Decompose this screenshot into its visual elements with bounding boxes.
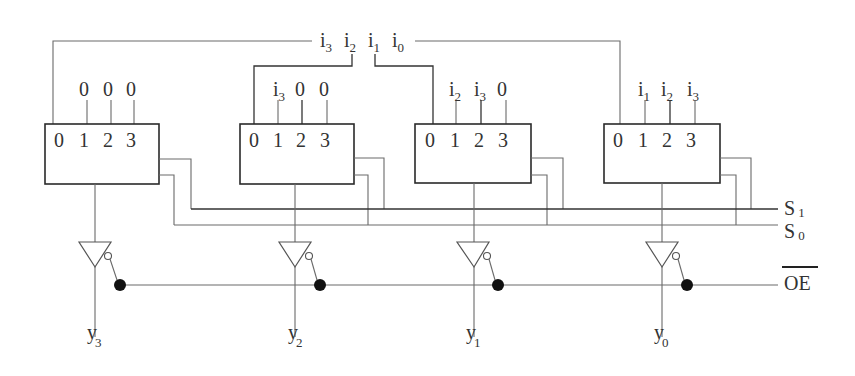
inverter-bubble-icon bbox=[306, 253, 313, 260]
mux1-input3-label: 0 bbox=[497, 78, 507, 100]
mux2-input3-label: 0 bbox=[319, 78, 329, 100]
mux1-pin0: 0 bbox=[425, 129, 435, 151]
junction-dot-icon bbox=[114, 279, 126, 291]
mux1-s0-wire bbox=[531, 175, 547, 225]
bus-label-i0: i0 bbox=[392, 29, 404, 55]
s0-label: S0 bbox=[784, 220, 805, 243]
bus-label-i1: i1 bbox=[368, 29, 380, 55]
mux3-input2-label: 0 bbox=[103, 78, 113, 100]
output-y0: y0 bbox=[646, 183, 693, 350]
mux0-pin2: 2 bbox=[662, 129, 672, 151]
mux0-input2-label: i2 bbox=[661, 78, 673, 104]
junction-dot-icon bbox=[681, 279, 693, 291]
mux-shifter-diagram: i3 i2 i1 i0 0 0 0 0 1 2 3 i3 0 0 0 1 2 3 bbox=[0, 0, 855, 376]
y0-label: y0 bbox=[654, 321, 669, 350]
s1-label: S1 bbox=[784, 197, 805, 220]
mux1-input2-label: i3 bbox=[474, 78, 486, 104]
mux1-pin3: 3 bbox=[498, 129, 508, 151]
oe-label: OE bbox=[784, 272, 811, 294]
mux0-pin1: 1 bbox=[638, 129, 648, 151]
mux1-pin1: 1 bbox=[450, 129, 460, 151]
mux3-s1-wire bbox=[159, 159, 191, 209]
bus-label-i3: i3 bbox=[320, 29, 332, 55]
mux3-pin3: 3 bbox=[126, 129, 136, 151]
wire-i1-to-mux1 bbox=[375, 54, 433, 124]
mux2-pin3: 3 bbox=[320, 129, 330, 151]
mux1-pin2: 2 bbox=[474, 129, 484, 151]
junction-dot-icon bbox=[492, 279, 504, 291]
mux3-pin1: 1 bbox=[79, 129, 89, 151]
mux2-input2-label: 0 bbox=[295, 78, 305, 100]
mux1-input1-label: i2 bbox=[449, 78, 461, 104]
enable-wire bbox=[489, 259, 495, 280]
inverter-bubble-icon bbox=[484, 253, 491, 260]
mux-1: i2 i3 0 0 1 2 3 bbox=[415, 78, 563, 225]
mux0-s0-wire bbox=[720, 175, 736, 225]
mux2-input1-label: i3 bbox=[273, 78, 285, 104]
mux3-input3-label: 0 bbox=[126, 78, 136, 100]
mux3-pin0: 0 bbox=[54, 129, 64, 151]
enable-wire bbox=[678, 259, 684, 280]
input-bus: i3 i2 i1 i0 bbox=[53, 29, 620, 124]
mux2-s1-wire bbox=[354, 158, 384, 209]
wire-i0-to-mux0 bbox=[415, 41, 620, 124]
inverter-bubble-icon bbox=[673, 253, 680, 260]
output-y3: y3 bbox=[79, 184, 126, 350]
mux3-pin2: 2 bbox=[103, 129, 113, 151]
y3-label: y3 bbox=[87, 321, 102, 350]
mux-0: i1 i2 i3 0 1 2 3 bbox=[604, 78, 751, 225]
mux-2: i3 0 0 0 1 2 3 bbox=[240, 78, 384, 225]
output-enable: OE bbox=[120, 267, 818, 294]
inverter-bubble-icon bbox=[105, 253, 112, 260]
bus-label-i2: i2 bbox=[344, 29, 356, 55]
junction-dot-icon bbox=[314, 279, 326, 291]
mux2-s0-wire bbox=[354, 175, 368, 225]
mux2-pin2: 2 bbox=[296, 129, 306, 151]
mux2-pin0: 0 bbox=[249, 129, 259, 151]
enable-wire bbox=[110, 259, 117, 280]
output-y1: y1 bbox=[457, 183, 504, 350]
y2-label: y2 bbox=[288, 321, 303, 350]
y1-label: y1 bbox=[466, 321, 481, 350]
mux0-input3-label: i3 bbox=[687, 78, 699, 104]
mux3-s0-wire bbox=[159, 175, 174, 225]
mux-3: 0 0 0 0 1 2 3 bbox=[45, 78, 191, 225]
enable-wire bbox=[311, 259, 317, 280]
mux0-input1-label: i1 bbox=[638, 78, 650, 104]
mux3-input1-label: 0 bbox=[79, 78, 89, 100]
mux2-pin1: 1 bbox=[273, 129, 283, 151]
select-lines: S1 S0 bbox=[174, 197, 805, 243]
mux0-pin0: 0 bbox=[613, 129, 623, 151]
mux0-pin3: 3 bbox=[686, 129, 696, 151]
